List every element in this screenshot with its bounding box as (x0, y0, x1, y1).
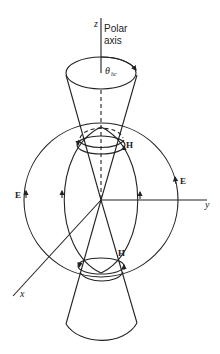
inner-e-field-arc-left (64, 127, 101, 273)
theta-subscript: hc (111, 71, 117, 77)
lower-cone-rim (66, 323, 137, 340)
z-axis-label: z (93, 18, 98, 29)
h-label-upper: H (126, 140, 133, 150)
h-label-lower: H (118, 248, 125, 258)
e-label-right: E (180, 176, 186, 186)
polar-caption-line1: Polar (104, 23, 128, 34)
y-axis-label: y (204, 199, 210, 210)
e-arrow-outer-right (175, 177, 176, 184)
polar-caption-line2: axis (104, 35, 122, 46)
upper-cone-right-edge (101, 75, 137, 200)
upper-cone-left-edge (66, 75, 101, 200)
lower-h-field-loop (78, 258, 124, 274)
biconical-antenna-diagram: z Polar axis θ hc y x E E H H (0, 0, 220, 354)
x-axis-label: x (19, 288, 25, 299)
theta-label: θ (105, 65, 110, 76)
e-label-left: E (15, 190, 21, 200)
